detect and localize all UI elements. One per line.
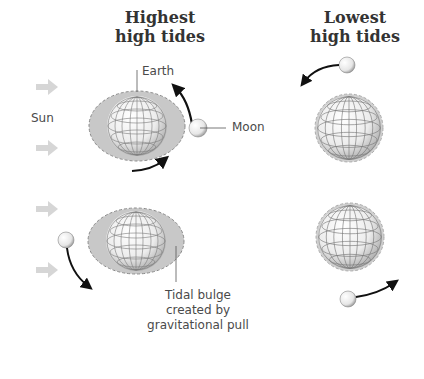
orbit-arrow-icon [356, 283, 394, 297]
sun-label: Sun [31, 111, 54, 126]
earth-globe-highest-bottom [88, 208, 184, 274]
moon-icon [58, 232, 74, 248]
moon-label: Moon [232, 120, 265, 135]
tidal-bulge-label: Tidal bulge created by gravitational pul… [138, 288, 258, 333]
sun-arrow-icon [36, 262, 58, 278]
earth-globe-lowest-bottom [316, 203, 384, 271]
orbit-arrow-icon [304, 65, 339, 82]
sun-arrow-icon [36, 201, 58, 217]
sun-arrow-icon [36, 140, 58, 156]
moon-icon [340, 291, 356, 307]
earth-label: Earth [142, 64, 174, 79]
earth-globe-lowest-top [315, 94, 383, 162]
bulge-line-2: created by [138, 303, 258, 318]
orbit-arrow-icon [132, 160, 164, 171]
earth-globe-highest-top [89, 91, 185, 161]
moon-icon [339, 57, 355, 73]
orbit-arrow-icon [67, 248, 88, 286]
bulge-line-1: Tidal bulge [138, 288, 258, 303]
bulge-line-3: gravitational pull [138, 318, 258, 333]
sun-arrow-icon [36, 79, 58, 95]
